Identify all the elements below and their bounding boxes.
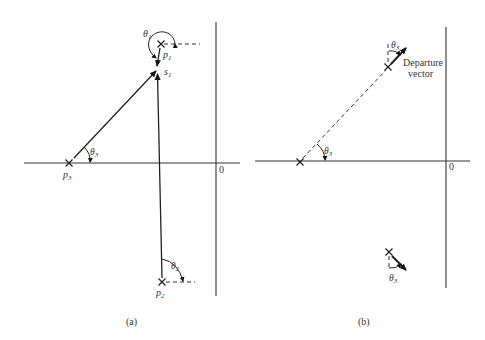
theta2-label: θ2 [171, 261, 180, 273]
pole-p1-marker-icon [158, 41, 165, 48]
departure-vector-label-line2: vector [408, 68, 434, 79]
test-point-s1-label: s1 [164, 66, 171, 79]
pole-p2-marker-icon [159, 279, 166, 286]
theta3-label-bottom: θ3 [389, 273, 398, 285]
pole-p2-label: p2 [155, 287, 165, 300]
upper-pole-marker-icon [385, 64, 392, 71]
vector-p1-to-s1 [157, 48, 160, 66]
pole-p3-label: p3 [62, 169, 72, 182]
origin-label: 0 [219, 164, 224, 175]
panel-a: 0 p3 θ3 p1 θ1 s1 p2 [24, 22, 240, 328]
vector-p3-to-s1 [74, 71, 156, 158]
theta3-label: θ3 [90, 147, 99, 159]
caption-a: (a) [126, 316, 137, 328]
root-locus-figure: 0 p3 θ3 p1 θ1 s1 p2 [0, 0, 485, 340]
theta3-label-lower: θ3 [324, 146, 333, 158]
caption-b: (b) [358, 316, 370, 328]
panel-b: 0 θ3 θ3 Departure vector θ3 (b) [255, 27, 470, 328]
vector-p2-to-s1 [158, 74, 163, 278]
lower-pole-marker-icon [386, 249, 393, 256]
theta3-departure-lower-arc-icon [389, 264, 401, 268]
pole-p1-label: p1 [162, 49, 172, 62]
origin-label: 0 [449, 161, 454, 172]
theta1-label: θ1 [143, 28, 151, 41]
theta3-label-upper: θ3 [391, 40, 400, 52]
real-pole-marker-icon [297, 159, 304, 166]
dashed-line-to-upper-pole [303, 70, 386, 158]
departure-vector-label-line1: Departure [403, 57, 444, 68]
